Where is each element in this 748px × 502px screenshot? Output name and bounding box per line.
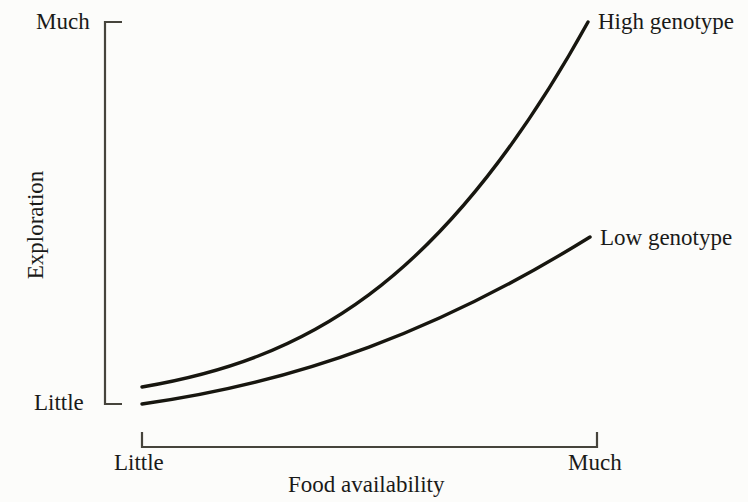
series-label-low-genotype: Low genotype xyxy=(600,225,732,251)
x-axis-tick-label-left: Little xyxy=(114,450,164,476)
series-label-high-genotype: High genotype xyxy=(598,9,734,35)
y-axis-tick-label-top: Much xyxy=(36,9,90,35)
y-axis-title: Exploration xyxy=(23,145,49,305)
x-axis-tick-label-right: Much xyxy=(568,450,622,476)
series-line-low-genotype xyxy=(142,237,590,404)
y-axis-tick-label-bottom: Little xyxy=(34,390,84,416)
x-axis-title: Food availability xyxy=(288,472,445,498)
chart-figure: Much Little Little Much Exploration Food… xyxy=(0,0,748,502)
x-axis-line xyxy=(142,432,597,447)
series-line-high-genotype xyxy=(142,22,588,387)
chart-plot-area xyxy=(0,0,748,502)
y-axis-line xyxy=(105,22,122,404)
